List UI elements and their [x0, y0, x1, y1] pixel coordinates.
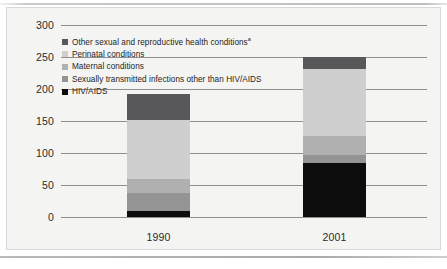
legend-item[interactable]: HIV/AIDS	[62, 86, 262, 97]
legend-swatch-icon	[62, 76, 68, 82]
y-axis-tick-label: 300	[36, 19, 54, 31]
legend-item-label: Other sexual and reproductive health con…	[72, 36, 251, 47]
x-axis-label-1990: 1990	[127, 231, 190, 243]
bar-segment[interactable]	[303, 57, 366, 69]
x-axis-label-2001: 2001	[303, 231, 366, 243]
legend-item[interactable]: Sexually transmitted infections other th…	[62, 74, 262, 85]
legend-swatch-icon	[62, 89, 68, 95]
bar-segment[interactable]	[303, 69, 366, 136]
legend-item-label: Sexually transmitted infections other th…	[72, 75, 262, 84]
legend-footnote-marker: a	[248, 36, 251, 42]
legend-item[interactable]: Other sexual and reproductive health con…	[62, 36, 262, 47]
bar-segment[interactable]	[127, 211, 190, 217]
legend-item-label: Perinatal conditions	[72, 50, 144, 59]
chart-legend: Other sexual and reproductive health con…	[62, 36, 262, 99]
legend-swatch-icon	[62, 64, 68, 70]
legend-item[interactable]: Perinatal conditions	[62, 49, 262, 60]
bar-segment[interactable]	[127, 193, 190, 211]
bottom-divider-rule	[0, 256, 447, 258]
y-axis-tick-label: 50	[42, 179, 54, 191]
y-axis-tick-label: 150	[36, 115, 54, 127]
bar-2001[interactable]: 2001	[303, 57, 366, 217]
bar-segment[interactable]	[127, 120, 190, 179]
y-axis-tick-label: 0	[48, 211, 54, 223]
legend-item-label: HIV/AIDS	[72, 87, 107, 96]
page-root: 050100150200250300 19902001 Other sexual…	[0, 0, 447, 269]
gridline-50	[61, 185, 427, 186]
bar-segment[interactable]	[127, 179, 190, 193]
legend-swatch-icon	[62, 51, 68, 57]
bar-segment[interactable]	[303, 136, 366, 155]
bar-1990[interactable]: 1990	[127, 94, 190, 217]
legend-item[interactable]: Maternal conditions	[62, 61, 262, 72]
gridline-300	[61, 25, 427, 26]
gridline-150	[61, 121, 427, 122]
chart-figure: 050100150200250300 19902001 Other sexual…	[6, 7, 441, 250]
top-divider-rule	[0, 3, 447, 5]
legend-swatch-icon	[62, 39, 68, 45]
legend-item-label: Maternal conditions	[72, 62, 144, 71]
y-axis-tick-label: 200	[36, 83, 54, 95]
y-axis-tick-label: 100	[36, 147, 54, 159]
gridline-100	[61, 153, 427, 154]
gridline-0	[61, 217, 427, 218]
bar-segment[interactable]	[303, 163, 366, 217]
bar-segment[interactable]	[303, 155, 366, 163]
y-axis-tick-label: 250	[36, 51, 54, 63]
